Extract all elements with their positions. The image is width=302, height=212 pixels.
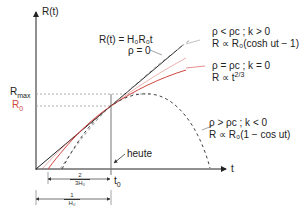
flat-condition: ρ = ρc ; k = 0	[212, 60, 270, 71]
flat-curve-alt	[42, 58, 186, 169]
today-label: heute	[127, 148, 152, 159]
flat-curve	[48, 70, 186, 169]
open-law: R ∝ R₀(cosh ut − 1)	[212, 38, 299, 49]
rmax-label: Rmax	[10, 86, 30, 97]
linear-rho: ρ = 0	[128, 45, 151, 56]
closed-condition: ρ > ρc ; k < 0	[209, 117, 267, 128]
closed-law: R ∝ R₀(1 − cos ut)	[209, 129, 290, 140]
open-curve	[60, 40, 190, 169]
flat-law: R ∝ t2/3	[212, 72, 244, 83]
linear-formula: R(t) = H₀R₀t	[99, 34, 153, 45]
two-thirds-h0-fraction: 2 3H₀	[70, 172, 90, 187]
t0-label: t0	[114, 175, 121, 186]
y-axis-label: R(t)	[42, 6, 59, 17]
r0-label: R0	[12, 99, 23, 110]
friedmann-scale-factor-diagram: R(t) t Rmax R0 t0 R(t) = H₀R₀t ρ = 0 ρ <…	[0, 0, 302, 212]
one-over-h0-fraction: 1 H₀	[64, 192, 80, 207]
open-condition: ρ < ρc ; k > 0	[212, 26, 270, 37]
x-axis-label: t	[231, 163, 234, 174]
